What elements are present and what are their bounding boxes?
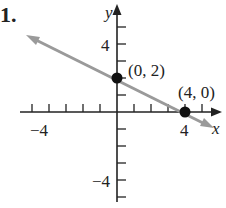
line-arrow-left-icon	[26, 35, 40, 45]
y-tick-label-neg4: −4	[92, 172, 111, 191]
point-label-0-2: (0, 2)	[128, 61, 165, 80]
y-axis-label: y	[103, 3, 113, 22]
x-axis-label: x	[211, 119, 220, 138]
point-4-0	[180, 107, 191, 118]
problem-number: 1.	[0, 2, 17, 27]
x-axis-arrow-icon	[211, 108, 222, 117]
y-axis	[113, 4, 127, 202]
point-0-2	[112, 73, 123, 84]
x-axis	[20, 104, 222, 117]
x-tick-label-neg4: −4	[30, 121, 49, 140]
y-tick-label-4: 4	[101, 36, 110, 55]
point-label-4-0: (4, 0)	[178, 83, 215, 102]
graph: 1.	[0, 0, 226, 208]
x-tick-label-4: 4	[180, 121, 189, 140]
y-axis-arrow-icon	[113, 4, 122, 15]
